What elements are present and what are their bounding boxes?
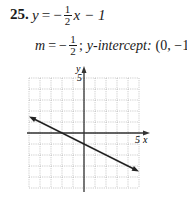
x-tick-label: 5 [135,134,140,145]
line-arrow-left-icon [29,117,36,122]
x-axis-label: x [142,134,148,145]
y-axis-arrow-icon [82,66,87,73]
y-tick-label: 5 [77,72,82,83]
coordinate-graph: y 5 5 x [0,0,187,200]
line-arrow-right-icon [132,166,139,171]
